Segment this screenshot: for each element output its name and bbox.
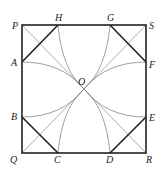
label-C: C: [54, 154, 61, 165]
label-S: S: [149, 20, 154, 31]
label-F: F: [148, 59, 156, 70]
label-B: B: [11, 111, 17, 122]
label-P: P: [11, 20, 18, 31]
label-G: G: [107, 12, 114, 23]
label-E: E: [148, 112, 155, 123]
label-D: D: [105, 154, 114, 165]
label-O: O: [78, 76, 85, 87]
label-A: A: [10, 57, 18, 68]
label-R: R: [145, 154, 152, 165]
label-H: H: [54, 12, 63, 23]
geometry-diagram: P H G S A F O B E Q C D R: [0, 0, 167, 175]
label-Q: Q: [10, 154, 18, 165]
